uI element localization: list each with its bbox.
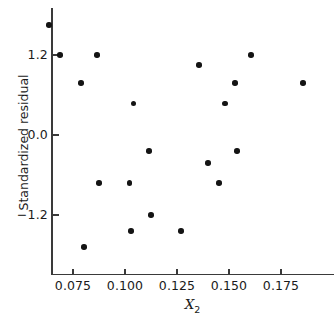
data-point [57, 52, 63, 58]
data-point [81, 244, 87, 250]
data-point [248, 52, 254, 58]
data-point [216, 180, 222, 186]
data-point [232, 80, 238, 86]
data-point [146, 148, 152, 154]
plot-data-area [0, 0, 335, 322]
data-point [148, 212, 154, 218]
data-point [300, 80, 306, 86]
data-point [94, 52, 100, 58]
data-point [46, 22, 52, 28]
data-point [78, 80, 84, 86]
data-point [127, 180, 133, 186]
scatter-plot-figure: 1.20.0−1.2 0.0750.1000.1250.1500.175 Sta… [0, 0, 335, 322]
data-point [178, 228, 184, 234]
data-point [196, 62, 202, 68]
data-point [96, 180, 102, 186]
data-point [222, 101, 228, 107]
data-point [131, 101, 137, 107]
data-point [205, 160, 211, 166]
data-point [234, 148, 240, 154]
data-point [128, 228, 134, 234]
